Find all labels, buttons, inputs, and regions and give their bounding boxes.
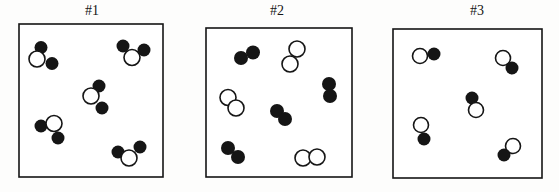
filled-atom [428, 48, 441, 61]
filled-atom [498, 149, 511, 162]
filled-atom [134, 141, 147, 154]
filled-atom [418, 133, 431, 146]
panel-label-2: #2 [270, 3, 284, 18]
filled-atom [506, 62, 519, 75]
filled-atom [323, 89, 337, 103]
filled-atom [231, 150, 245, 164]
open-atom [46, 116, 62, 132]
panel-label-3: #3 [470, 3, 484, 18]
filled-atom [234, 51, 248, 65]
open-atom [413, 49, 428, 64]
panel-1: #1 [19, 3, 163, 177]
open-atom [29, 51, 45, 67]
particle-diagram-svg: #1#2#3 [0, 0, 559, 192]
open-atom [83, 88, 99, 104]
open-atom [469, 103, 484, 118]
filled-atom [278, 112, 292, 126]
filled-atom [46, 57, 59, 70]
filled-atom [52, 132, 65, 145]
open-atom [289, 41, 305, 57]
panel-label-1: #1 [85, 3, 99, 18]
filled-atom [246, 46, 260, 60]
panel-2: #2 [206, 3, 352, 177]
filled-atom [138, 44, 151, 57]
panel-3: #3 [393, 3, 542, 178]
open-atom [414, 118, 429, 133]
open-atom [124, 50, 140, 66]
open-atom [282, 56, 298, 72]
open-atom [228, 100, 244, 116]
molecular-diagram-figure: #1#2#3 [0, 0, 559, 192]
open-atom [121, 150, 137, 166]
open-atom [309, 149, 325, 165]
filled-atom [322, 77, 336, 91]
filled-atom [96, 102, 109, 115]
